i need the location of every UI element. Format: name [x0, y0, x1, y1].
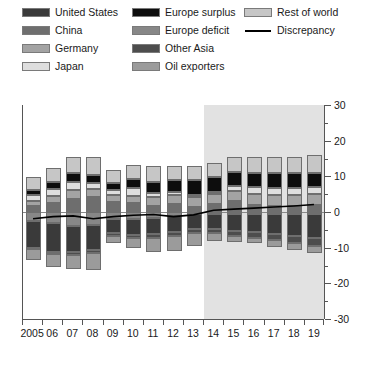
plot-area [22, 105, 324, 319]
chart-area: 3020100-10-20-30 20050607080910111213141… [0, 82, 372, 374]
y-tick-major--20 [325, 283, 331, 284]
legend-label-other_asia: Other Asia [165, 43, 214, 54]
y-tick-major-20 [325, 141, 331, 142]
legend-label-rest_of_world: Rest of world [277, 7, 338, 18]
y-tick-label-0: 0 [334, 207, 340, 217]
legend-item-china[interactable]: China [22, 22, 118, 39]
legend-item-oil_exporters[interactable]: Oil exporters [132, 58, 236, 75]
legend-item-us[interactable]: United States [22, 4, 118, 21]
plot-inner [23, 105, 324, 319]
y-tick-label-30: 30 [334, 100, 346, 110]
legend-swatch-icon-europe_deficit [132, 26, 160, 35]
y-tick-major-10 [325, 176, 331, 177]
legend-item-germany[interactable]: Germany [22, 40, 118, 57]
x-tick-2005 [22, 319, 23, 325]
x-tick-label-07: 07 [66, 328, 78, 339]
discrepancy-line [23, 105, 324, 318]
y-tick-minor-5 [325, 194, 328, 195]
x-tick-label-2005: 2005 [20, 328, 43, 339]
y-tick-label-10: 10 [334, 171, 346, 181]
x-tick-label-18: 18 [288, 328, 300, 339]
x-tick-08 [82, 319, 83, 325]
chart-page: United StatesChinaGermanyJapan Europe su… [0, 0, 372, 374]
y-tick-label--10: -10 [334, 243, 349, 253]
x-tick-18 [284, 319, 285, 325]
legend-line-icon-discrepancy [244, 26, 272, 35]
legend-item-europe_surplus[interactable]: Europe surplus [132, 4, 236, 21]
legend-swatch-icon-japan [22, 62, 50, 71]
x-axis-line [22, 319, 324, 320]
legend-label-discrepancy: Discrepancy [277, 25, 335, 36]
x-tick-07 [62, 319, 63, 325]
discrepancy-path [33, 205, 314, 219]
y-tick-major-30 [325, 105, 331, 106]
y-tick-label--20: -20 [334, 278, 349, 288]
x-tick-06 [42, 319, 43, 325]
x-tick-19 [304, 319, 305, 325]
legend-item-japan[interactable]: Japan [22, 58, 118, 75]
legend-label-us: United States [55, 7, 118, 18]
y-tick-label--30: -30 [334, 314, 349, 324]
x-tick-09 [103, 319, 104, 325]
legend-column-3: Rest of worldDiscrepancy [244, 4, 338, 40]
y-tick-minor--5 [325, 230, 328, 231]
y-tick-label-20: 20 [334, 136, 346, 146]
y-tick-minor--25 [325, 301, 328, 302]
x-tick-label-14: 14 [207, 328, 219, 339]
y-tick-major--30 [325, 319, 331, 320]
legend-swatch-icon-rest_of_world [244, 8, 272, 17]
legend-label-japan: Japan [55, 61, 84, 72]
x-tick-13 [183, 319, 184, 325]
legend-column-1: United StatesChinaGermanyJapan [22, 4, 118, 76]
x-axis: 20050607080910111213141516171819 [22, 319, 324, 359]
legend-item-europe_deficit[interactable]: Europe deficit [132, 22, 236, 39]
legend-swatch-icon-oil_exporters [132, 62, 160, 71]
x-tick-11 [143, 319, 144, 325]
legend-swatch-icon-europe_surplus [132, 8, 160, 17]
legend-item-rest_of_world[interactable]: Rest of world [244, 4, 338, 21]
y-tick-minor-15 [325, 159, 328, 160]
legend-swatch-icon-other_asia [132, 44, 160, 53]
y-tick-major-0 [325, 212, 331, 213]
x-tick-10 [123, 319, 124, 325]
x-tick-15 [223, 319, 224, 325]
x-tick-16 [243, 319, 244, 325]
legend-item-other_asia[interactable]: Other Asia [132, 40, 236, 57]
x-tick-17 [264, 319, 265, 325]
legend-label-china: China [55, 25, 82, 36]
legend-column-2: Europe surplusEurope deficitOther AsiaOi… [132, 4, 236, 76]
legend-label-germany: Germany [55, 43, 98, 54]
legend-swatch-icon-us [22, 8, 50, 17]
legend-swatch-icon-germany [22, 44, 50, 53]
legend-label-europe_deficit: Europe deficit [165, 25, 229, 36]
chart-legend: United StatesChinaGermanyJapan Europe su… [0, 0, 372, 82]
y-tick-minor-25 [325, 123, 328, 124]
y-axis: 3020100-10-20-30 [324, 105, 372, 319]
x-tick-end [323, 319, 324, 325]
x-tick-14 [203, 319, 204, 325]
x-tick-label-15: 15 [228, 328, 240, 339]
legend-label-europe_surplus: Europe surplus [165, 7, 236, 18]
y-tick-major--10 [325, 248, 331, 249]
legend-item-discrepancy[interactable]: Discrepancy [244, 22, 338, 39]
x-tick-label-10: 10 [127, 328, 139, 339]
x-tick-label-09: 09 [107, 328, 119, 339]
x-tick-label-11: 11 [147, 328, 158, 339]
x-tick-label-12: 12 [167, 328, 179, 339]
x-tick-label-13: 13 [187, 328, 199, 339]
x-tick-12 [163, 319, 164, 325]
legend-swatch-icon-china [22, 26, 50, 35]
x-tick-label-06: 06 [46, 328, 58, 339]
x-tick-label-19: 19 [308, 328, 320, 339]
x-tick-label-16: 16 [248, 328, 260, 339]
legend-label-oil_exporters: Oil exporters [165, 61, 225, 72]
x-tick-label-08: 08 [87, 328, 99, 339]
y-tick-minor--15 [325, 266, 328, 267]
x-tick-label-17: 17 [268, 328, 280, 339]
